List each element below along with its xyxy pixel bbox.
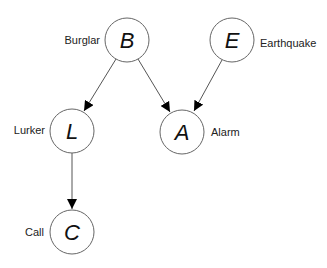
node-call: C Call: [25, 210, 94, 254]
bayes-network-diagram: B Burglar E Earthquake L Lurker A Alarm …: [0, 0, 327, 268]
node-lurker: L Lurker: [14, 109, 94, 153]
node-letter: A: [173, 120, 190, 145]
node-label: Lurker: [14, 124, 46, 136]
edge-b-to-a: [138, 59, 170, 112]
node-letter: B: [120, 28, 135, 53]
node-label: Burglar: [65, 34, 101, 46]
edge-e-to-a: [194, 60, 222, 111]
node-label: Alarm: [211, 126, 240, 138]
edge-b-to-l: [84, 59, 116, 111]
node-burglar: B Burglar: [65, 18, 149, 62]
node-label: Call: [25, 226, 44, 238]
node-letter: L: [66, 119, 78, 144]
node-alarm: A Alarm: [160, 110, 240, 154]
node-label: Earthquake: [260, 37, 316, 49]
node-earthquake: E Earthquake: [210, 18, 316, 62]
node-letter: E: [225, 28, 240, 53]
node-letter: C: [64, 220, 80, 245]
